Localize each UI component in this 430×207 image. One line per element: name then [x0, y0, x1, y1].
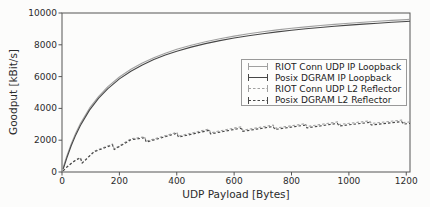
legend-item-2: RIOT Conn UDP L2 Reflector	[242, 83, 406, 94]
x-tick-label: 400	[168, 176, 185, 186]
legend-label: RIOT Conn UDP L2 Reflector	[275, 84, 401, 94]
legend-label: Posix DGRAM L2 Reflector	[275, 95, 391, 105]
x-tick-label: 1200	[395, 176, 418, 186]
y-axis-label: Goodput [kBit/s]	[7, 49, 19, 135]
legend-item-0: RIOT Conn UDP IP Loopback	[242, 61, 406, 72]
legend-item-3: Posix DGRAM L2 Reflector	[242, 95, 406, 106]
legend-item-1: Posix DGRAM IP Loopback	[242, 72, 406, 83]
errorbar-marker-icon	[247, 83, 269, 94]
y-tick-label: 6000	[34, 72, 57, 82]
y-tick-label: 0	[51, 167, 57, 177]
legend: RIOT Conn UDP IP LoopbackPosix DGRAM IP …	[241, 59, 407, 106]
errorbar-marker-icon	[247, 95, 269, 106]
errorbar-marker-icon	[247, 72, 269, 83]
y-tick-label: 4000	[34, 103, 57, 113]
y-tick-label: 2000	[34, 135, 57, 145]
x-tick-label: 200	[111, 176, 128, 186]
errorbar-marker-icon	[247, 61, 269, 72]
x-tick-label: 600	[226, 176, 243, 186]
goodput-benchmark-figure: 0200400600800100012000200040006000800010…	[0, 0, 430, 207]
x-tick-label: 800	[283, 176, 300, 186]
x-axis-label: UDP Payload [Bytes]	[62, 188, 410, 200]
series-line-3	[63, 122, 410, 171]
legend-label: RIOT Conn UDP IP Loopback	[275, 62, 401, 72]
x-tick-label: 0	[59, 176, 65, 186]
x-tick-label: 1000	[337, 176, 360, 186]
series-line-2	[63, 120, 410, 171]
legend-label: Posix DGRAM IP Loopback	[275, 73, 391, 83]
y-tick-label: 8000	[34, 40, 57, 50]
y-tick-label: 10000	[28, 8, 57, 18]
